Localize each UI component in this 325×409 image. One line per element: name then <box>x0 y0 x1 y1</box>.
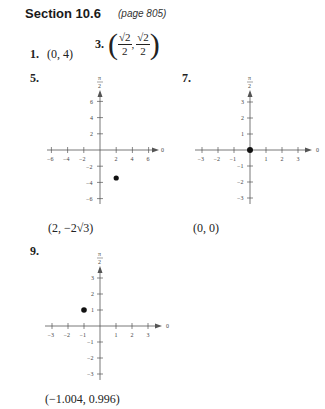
arrow-up-icon <box>98 90 103 97</box>
arrow-up-icon <box>98 266 103 273</box>
svg-text:−4: −4 <box>63 156 69 162</box>
svg-text:1: 1 <box>241 131 244 137</box>
answer-1: 1. (0, 4) <box>30 44 73 62</box>
svg-text:−2: −2 <box>86 164 92 170</box>
data-point <box>81 307 87 313</box>
answer-9-number: 9. <box>30 244 39 259</box>
svg-text:−2: −2 <box>237 179 243 185</box>
right-paren: ) <box>150 27 160 60</box>
pi-over-2-label: π <box>98 75 101 81</box>
svg-text:2: 2 <box>98 83 101 89</box>
polar-plot-9: π 2 0 −3−2−1 123 321 −1−2−3 <box>40 246 175 386</box>
svg-text:2: 2 <box>281 156 284 162</box>
svg-text:2: 2 <box>248 83 251 89</box>
svg-text:−3: −3 <box>198 156 204 162</box>
left-paren: ( <box>108 27 118 60</box>
answer-3: 3. (√22,√22) <box>95 29 160 59</box>
svg-text:−3: −3 <box>87 371 93 377</box>
answer-number: 3. <box>95 37 104 51</box>
svg-text:3: 3 <box>91 275 94 281</box>
svg-text:−2: −2 <box>87 355 93 361</box>
arrow-right-icon <box>305 148 312 153</box>
svg-text:2: 2 <box>91 291 94 297</box>
svg-text:1: 1 <box>91 307 94 313</box>
svg-text:2: 2 <box>241 115 244 121</box>
answer-9-caption: (−1.004, 0.996) <box>45 392 120 407</box>
svg-text:6: 6 <box>147 156 150 162</box>
svg-text:π: π <box>248 75 251 81</box>
svg-text:3: 3 <box>297 156 300 162</box>
arrow-right-icon <box>152 148 159 153</box>
svg-text:−2: −2 <box>64 332 70 338</box>
arrow-right-icon <box>155 324 162 329</box>
svg-text:0: 0 <box>166 323 169 329</box>
section-title: Section 10.6 <box>25 6 101 21</box>
svg-text:6: 6 <box>90 99 93 105</box>
svg-text:2: 2 <box>90 131 93 137</box>
svg-text:0: 0 <box>161 147 164 153</box>
svg-text:3: 3 <box>241 99 244 105</box>
svg-text:−1: −1 <box>80 332 86 338</box>
svg-text:3: 3 <box>147 332 150 338</box>
svg-text:−2: −2 <box>79 156 85 162</box>
svg-text:4: 4 <box>90 115 93 121</box>
fraction-1: √22 <box>118 31 132 58</box>
svg-text:4: 4 <box>131 156 134 162</box>
polar-plot-7: π 2 0 −3−2−1 123 321 −1−2−3 <box>190 70 325 210</box>
answer-5-caption: (2, −2√3) <box>48 221 93 236</box>
answer-number: 1. <box>30 47 39 61</box>
svg-text:π: π <box>98 251 101 257</box>
svg-text:2: 2 <box>115 156 118 162</box>
polar-plot-5: π 2 0 −6−4−2 246 642 −2−4−6 <box>35 70 165 210</box>
svg-text:2: 2 <box>131 332 134 338</box>
svg-text:−2: −2 <box>214 156 220 162</box>
data-point <box>114 175 119 180</box>
svg-text:−1: −1 <box>237 163 243 169</box>
answer-value: (0, 4) <box>47 47 73 61</box>
svg-text:−3: −3 <box>237 195 243 201</box>
svg-text:0: 0 <box>316 147 319 153</box>
fraction-2: √22 <box>136 31 150 58</box>
arrow-up-icon <box>248 90 253 97</box>
svg-text:1: 1 <box>115 332 118 338</box>
svg-text:2: 2 <box>98 259 101 265</box>
svg-text:−6: −6 <box>86 196 92 202</box>
svg-text:−1: −1 <box>87 339 93 345</box>
svg-text:−4: −4 <box>86 180 92 186</box>
svg-text:−1: −1 <box>230 156 236 162</box>
svg-text:1: 1 <box>265 156 268 162</box>
svg-text:−3: −3 <box>48 332 54 338</box>
svg-text:−6: −6 <box>47 156 53 162</box>
data-point <box>247 147 253 153</box>
answer-7-caption: (0, 0) <box>193 221 219 236</box>
section-page-reference: (page 805) <box>118 8 166 19</box>
